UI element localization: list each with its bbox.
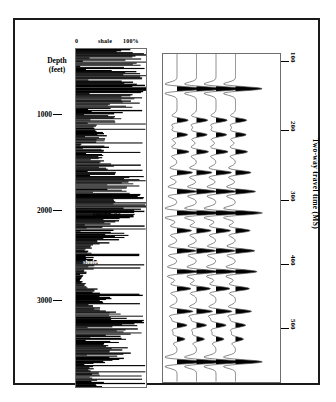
time-tick-500 bbox=[281, 328, 289, 329]
log-curve-name-label: shale bbox=[98, 38, 112, 44]
shale-log-panel: 0 shale 100% sandstone shale bbox=[75, 48, 147, 388]
time-tick-300 bbox=[281, 200, 289, 201]
time-tick-label-300: 300 bbox=[289, 191, 297, 202]
time-tick-label-100: 100 bbox=[289, 52, 297, 63]
figure-frame: Depth (feet) 0 shale 100% sandstone shal… bbox=[13, 18, 320, 385]
depth-axis-title-line1: Depth bbox=[37, 56, 77, 65]
shale-log-curve bbox=[76, 49, 146, 387]
depth-axis-title-line2: (feet) bbox=[37, 65, 77, 74]
time-tick-label-500: 500 bbox=[289, 319, 297, 330]
depth-tick-label-1000: 1000 bbox=[18, 110, 52, 119]
annotation-sandstone: sandstone bbox=[93, 210, 120, 217]
time-tick-label-400: 400 bbox=[289, 255, 297, 266]
log-scale-max-label: 100% bbox=[123, 38, 139, 44]
depth-axis-title: Depth (feet) bbox=[37, 56, 77, 74]
depth-tick-label-3000: 3000 bbox=[18, 296, 52, 305]
shale-log-header: 0 shale 100% bbox=[75, 38, 147, 48]
time-tick-100 bbox=[281, 61, 289, 62]
time-tick-200 bbox=[281, 130, 289, 131]
log-scale-min-label: 0 bbox=[75, 38, 78, 44]
depth-tick-2000 bbox=[53, 210, 62, 211]
annotation-shale: shale bbox=[83, 258, 97, 265]
time-tick-400 bbox=[281, 264, 289, 265]
shale-log-track bbox=[75, 48, 147, 388]
time-axis-title: Two-way travel time (MS) bbox=[311, 138, 320, 229]
depth-tick-label-2000: 2000 bbox=[18, 206, 52, 215]
depth-tick-1000 bbox=[53, 114, 62, 115]
seismic-traces-panel bbox=[162, 53, 281, 383]
time-tick-label-200: 200 bbox=[289, 121, 297, 132]
seismic-wiggle-traces bbox=[163, 54, 280, 382]
depth-tick-3000 bbox=[53, 300, 62, 301]
